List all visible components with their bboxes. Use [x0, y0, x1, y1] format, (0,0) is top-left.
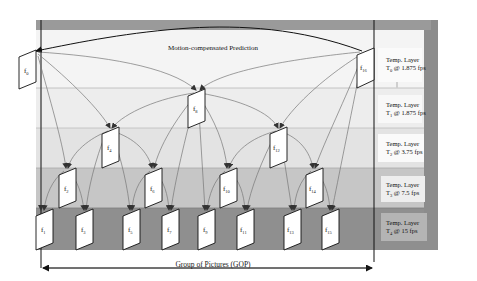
frame-f14: f14 — [306, 168, 323, 208]
gop-span-arrow: Group of Pictures (GOP) — [43, 260, 372, 269]
layer-background — [36, 20, 438, 250]
frame-f5: f5 — [123, 209, 140, 250]
frame-f11: f11 — [237, 209, 254, 250]
frame-f6: f6 — [145, 168, 162, 208]
layer-t2-label: Temp. LayerT2 @ 3.75 fps — [386, 140, 423, 157]
frame-f10: f10 — [220, 168, 237, 208]
frame-f13: f13 — [284, 209, 301, 250]
frame-f4: f4 — [102, 127, 119, 168]
frame-f9: f9 — [198, 209, 215, 250]
frame-f12: f12 — [270, 127, 287, 168]
frame-f15: f15 — [322, 209, 339, 250]
gop-label: Group of Pictures (GOP) — [175, 260, 251, 269]
frame-f1: f1 — [36, 209, 53, 250]
diagram-title: Motion-compensated Prediction — [168, 44, 259, 52]
band-t2 — [36, 128, 428, 168]
frame-f3: f3 — [76, 209, 93, 250]
band-t1 — [36, 88, 424, 128]
frame-f2: f2 — [59, 168, 76, 208]
frame-f8: f8 — [188, 89, 205, 128]
frame-f7: f7 — [162, 209, 179, 250]
frame-f0: f0 — [19, 50, 36, 89]
hierarchical-b-picture-diagram: Temp. LayerT0 @ 1.875 fps Temp. LayerT1 … — [0, 0, 477, 281]
